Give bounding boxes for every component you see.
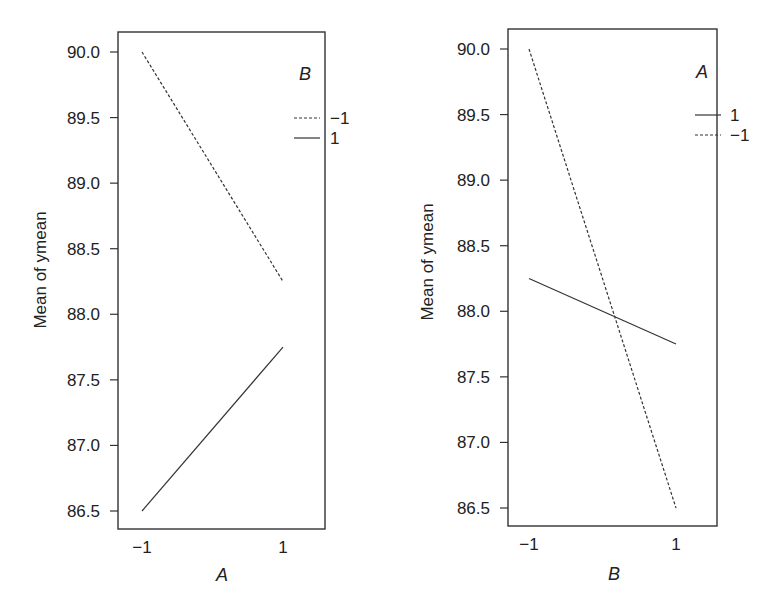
x-tick-label: −1: [132, 538, 151, 557]
y-tick-label: 87.0: [67, 436, 100, 455]
y-tick-label: 87.5: [457, 368, 490, 387]
plot-frame: [508, 29, 717, 526]
interaction-plot-a: 86.587.087.588.088.589.089.590.0 −11 B −…: [31, 32, 349, 585]
x-tick-label: −1: [519, 535, 538, 554]
series-line--1: [529, 49, 676, 508]
legend: 1−1: [695, 106, 749, 145]
x-axis-ticks: −11: [519, 535, 680, 554]
y-tick-label: 88.5: [67, 240, 100, 259]
legend: −11: [294, 109, 349, 148]
y-tick-label: 89.5: [67, 109, 100, 128]
y-tick-label: 89.0: [67, 174, 100, 193]
series-line-1: [142, 347, 283, 511]
series-lines: [142, 52, 283, 511]
y-tick-label: 87.0: [457, 433, 490, 452]
series-line-1: [529, 279, 676, 345]
x-tick-label: 1: [278, 538, 287, 557]
y-tick-label: 86.5: [67, 502, 100, 521]
legend-title: A: [695, 62, 708, 82]
x-tick-label: 1: [671, 535, 680, 554]
series-lines: [529, 49, 676, 508]
legend-label: −1: [330, 109, 349, 128]
x-axis-ticks: −11: [132, 538, 287, 557]
x-axis-label: A: [215, 565, 228, 585]
y-tick-label: 89.0: [457, 171, 490, 190]
interaction-plot-b: 86.587.087.588.088.589.089.590.0 −11 A 1…: [418, 29, 749, 584]
y-tick-label: 89.5: [457, 106, 490, 125]
y-tick-label: 88.5: [457, 237, 490, 256]
y-tick-label: 90.0: [457, 40, 490, 59]
interaction-plot-figure: 86.587.087.588.088.589.089.590.0 −11 B −…: [0, 0, 781, 606]
y-tick-label: 88.0: [67, 305, 100, 324]
y-tick-label: 86.5: [457, 499, 490, 518]
y-axis-ticks: 86.587.087.588.088.589.089.590.0: [457, 40, 508, 518]
legend-label: 1: [730, 106, 739, 125]
y-tick-label: 87.5: [67, 371, 100, 390]
y-axis-label: Mean of ymean: [31, 211, 50, 328]
x-axis-label: B: [608, 564, 620, 584]
legend-label: 1: [330, 129, 339, 148]
y-tick-label: 90.0: [67, 43, 100, 62]
y-axis-label: Mean of ymean: [418, 203, 437, 320]
series-line--1: [142, 52, 283, 282]
legend-label: −1: [730, 126, 749, 145]
plot-frame: [118, 32, 325, 529]
legend-title: B: [299, 64, 311, 84]
y-tick-label: 88.0: [457, 302, 490, 321]
y-axis-ticks: 86.587.087.588.088.589.089.590.0: [67, 43, 118, 521]
